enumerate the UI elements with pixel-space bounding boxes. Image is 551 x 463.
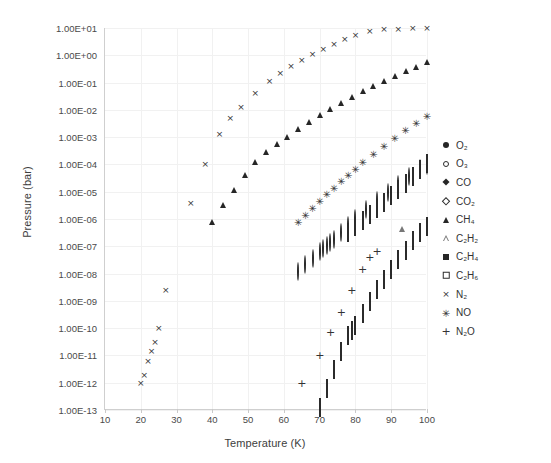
marker-asterisk: ✳: [412, 118, 421, 127]
marker-open-diamond: [333, 360, 335, 379]
marker-plus: +: [347, 285, 356, 294]
gridline-horizontal: [105, 355, 426, 356]
marker-open-circle: [304, 255, 306, 274]
data-point-N2: ×: [319, 44, 328, 53]
legend-item-C2H4[interactable]: C₂H₄: [438, 248, 544, 267]
marker-open-circle: [365, 200, 367, 219]
data-point-NO: ✳: [380, 142, 389, 151]
x-axis-tick-label: 90: [386, 414, 397, 425]
legend-item-CO[interactable]: CO: [438, 173, 544, 192]
legend-item-NO[interactable]: ✳NO: [438, 303, 544, 322]
data-point-N2: ×: [365, 27, 374, 36]
data-point-N2: ×: [297, 55, 306, 64]
legend-item-CH4[interactable]: CH₄: [438, 210, 544, 229]
marker-filled-triangle: [252, 142, 258, 165]
marker-open-diamond: [319, 398, 321, 417]
marker-filled-circle: [443, 142, 449, 148]
legend-marker-open-square: [438, 267, 454, 283]
marker-filled-triangle: [306, 102, 312, 125]
x-axis-tick-mark: [141, 409, 142, 413]
legend-label: N₂O: [454, 326, 475, 337]
legend-marker-filled-circle: [438, 137, 454, 153]
marker-filled-triangle: [263, 132, 269, 155]
data-point-N2O: +: [347, 285, 356, 294]
marker-asterisk: ✳: [369, 150, 378, 159]
marker-open-square: [405, 174, 407, 193]
marker-filled-triangle: [443, 217, 449, 223]
gridline-horizontal: [105, 110, 426, 111]
marker-cross: ×: [226, 114, 235, 123]
marker-cross: ×: [147, 346, 156, 355]
data-point-N2: ×: [380, 25, 389, 34]
legend-item-N2[interactable]: ×N₂: [438, 285, 544, 304]
data-point-NO: ✳: [401, 126, 410, 135]
marker-plus: +: [297, 378, 306, 387]
marker-filled-triangle: [424, 42, 430, 65]
marker-filled-diamond: [442, 179, 449, 186]
data-point-N2: ×: [140, 370, 149, 379]
marker-filled-square: [443, 254, 449, 260]
marker-plus: +: [372, 246, 381, 255]
data-point-N2: ×: [151, 338, 160, 347]
marker-cross: ×: [351, 31, 360, 40]
marker-open-diamond: [383, 270, 385, 289]
legend-item-N2O[interactable]: +N₂O: [438, 322, 544, 341]
marker-cross: ×: [308, 50, 317, 59]
legend-label: O₃: [454, 158, 468, 169]
marker-cross: ×: [319, 44, 328, 53]
marker-filled-triangle: [317, 95, 323, 118]
data-point-N2: ×: [351, 31, 360, 40]
legend-item-O3[interactable]: O₃: [438, 155, 544, 174]
marker-open-circle: [322, 239, 324, 258]
marker-open-square: [383, 193, 385, 212]
marker-open-square: [376, 199, 378, 218]
marker-open-square: [347, 223, 349, 242]
data-point-N2: ×: [308, 50, 317, 59]
marker-open-square: [397, 180, 399, 199]
marker-cross: ×: [140, 370, 149, 379]
legend-marker-filled-triangle: [438, 212, 454, 228]
data-point-N2O: +: [326, 328, 335, 337]
x-axis-tick-label: 40: [207, 414, 218, 425]
marker-open-circle: [340, 223, 342, 242]
marker-filled-triangle: [381, 61, 387, 84]
gridline-vertical: [391, 28, 392, 409]
y-axis-tick-label: 1.00E-10: [27, 323, 97, 334]
gridline-horizontal: [105, 383, 426, 384]
marker-asterisk: ✳: [442, 308, 451, 317]
marker-cross: ×: [136, 378, 145, 387]
y-axis-tick-label: 1.00E-05: [27, 186, 97, 197]
marker-cross: ×: [287, 62, 296, 71]
y-axis-tick-label: 1.00E+00: [27, 50, 97, 61]
legend-item-C2H6[interactable]: C₂H₆: [438, 266, 544, 285]
x-axis-tick-label: 60: [279, 414, 290, 425]
data-point-NO: ✳: [423, 111, 432, 120]
marker-open-diamond: [442, 197, 450, 205]
y-axis-tick-label: 1.00E-13: [27, 405, 97, 416]
marker-cross: ×: [161, 285, 170, 294]
marker-filled-triangle: [413, 47, 419, 70]
data-point-N2O: +: [372, 246, 381, 255]
data-point-N2: ×: [394, 24, 403, 33]
legend-item-CO2[interactable]: CO₂: [438, 192, 544, 211]
marker-filled-triangle: [327, 89, 333, 112]
marker-filled-triangle: [338, 83, 344, 106]
legend-label: C₂H₆: [454, 270, 478, 281]
legend-label: CO₂: [454, 196, 475, 207]
marker-cross: ×: [251, 89, 260, 98]
marker-filled-triangle: [295, 109, 301, 132]
marker-open-circle: [329, 233, 331, 252]
marker-open-diamond: [369, 292, 371, 311]
data-point-N2: ×: [287, 62, 296, 71]
marker-plus: +: [442, 327, 451, 336]
legend-label: C₂H₂: [454, 233, 478, 244]
data-point-NO: ✳: [390, 134, 399, 143]
marker-open-diamond: [426, 217, 428, 236]
legend-item-O2[interactable]: O₂: [438, 136, 544, 155]
marker-filled-triangle: [242, 155, 248, 178]
marker-cross: ×: [265, 77, 274, 86]
legend-marker-plus: +: [438, 323, 454, 339]
plot-area: 1.00E+011.00E+001.00E-011.00E-021.00E-03…: [104, 28, 426, 410]
legend-item-C2H2[interactable]: C₂H₂: [438, 229, 544, 248]
x-axis-tick-mark: [391, 409, 392, 413]
